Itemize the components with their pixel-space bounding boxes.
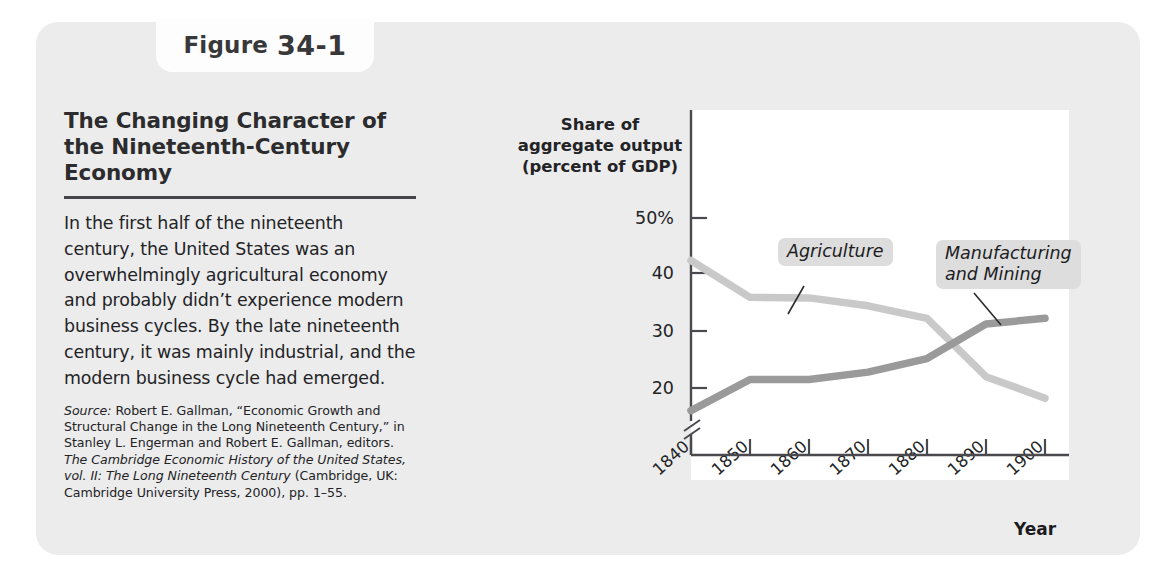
series-callout-agriculture: Agriculture: [778, 238, 893, 266]
x-tick-label-1900: 1900: [1003, 437, 1047, 479]
x-tick-label-1850: 1850: [708, 437, 752, 479]
x-tick-label-1840: 1840: [649, 437, 693, 479]
x-tick-label-1870: 1870: [826, 437, 870, 479]
axes: [684, 110, 1069, 455]
leader-line-agriculture: [788, 286, 804, 314]
figure-source-citation: Source: Robert E. Gallman, “Economic Gro…: [64, 403, 416, 501]
x-axis-ticks: [691, 439, 1045, 455]
x-axis-title: Year: [1014, 519, 1056, 539]
y-tick-label-30: 30: [614, 321, 674, 341]
figure-number-tab: Figure 34-1: [156, 18, 374, 72]
title-divider: [64, 196, 416, 199]
y-axis-ticks: [691, 218, 707, 388]
figure-title: The Changing Character of the Nineteenth…: [64, 108, 416, 186]
figure-text-column: The Changing Character of the Nineteenth…: [64, 108, 416, 501]
x-tick-label-1890: 1890: [944, 437, 988, 479]
plot-area: [691, 110, 1069, 480]
y-axis-title: Share of aggregate output (percent of GD…: [516, 114, 684, 177]
x-tick-label-1860: 1860: [767, 437, 811, 479]
y-tick-label-40: 40: [614, 263, 674, 283]
source-label: Source:: [64, 403, 111, 418]
y-tick-label-40b: 20: [614, 378, 674, 398]
figure-label: Figure: [183, 32, 268, 58]
figure-number: 34-1: [277, 30, 347, 61]
y-tick-label-50: 50%: [614, 208, 674, 228]
series-line-agriculture: [691, 261, 1045, 399]
figure-card: Figure 34-1 The Changing Character of th…: [36, 22, 1140, 555]
series-line-manufacturing: [691, 318, 1045, 410]
series-callout-manufacturing: Manufacturing and Mining: [936, 240, 1081, 289]
leader-line-manufacturing: [974, 293, 1001, 325]
figure-body-text: In the first half of the nineteenth cent…: [64, 211, 416, 392]
source-text-part-one: Robert E. Gallman, “Economic Growth and …: [64, 403, 405, 451]
x-tick-label-1880: 1880: [885, 437, 929, 479]
